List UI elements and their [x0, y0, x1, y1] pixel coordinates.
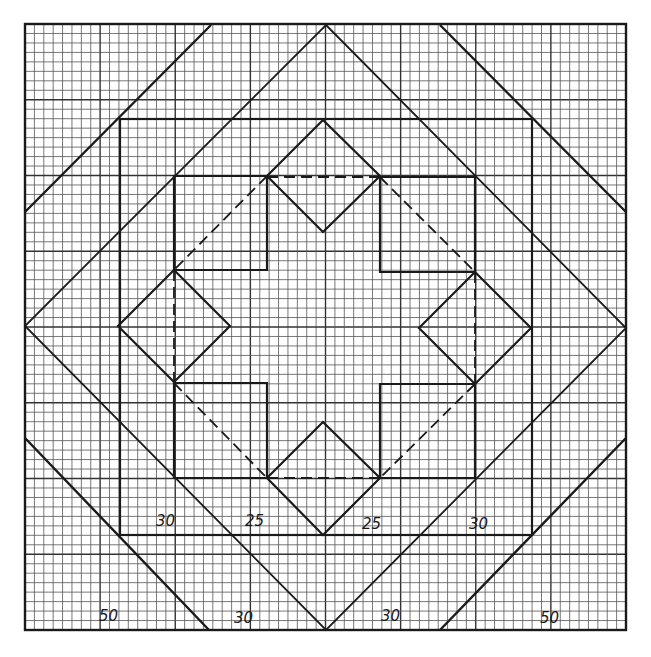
quilt-diagram: 30 25 25 30 50 30 30 50 [0, 0, 651, 657]
lower-label-2: 30 [234, 609, 253, 627]
upper-label-1: 30 [156, 512, 175, 530]
upper-label-3: 25 [362, 515, 381, 533]
lower-label-4: 50 [540, 609, 559, 627]
lower-label-1: 50 [99, 607, 118, 625]
upper-label-2: 25 [245, 512, 264, 530]
lower-label-3: 30 [381, 607, 400, 625]
upper-label-4: 30 [469, 515, 488, 533]
